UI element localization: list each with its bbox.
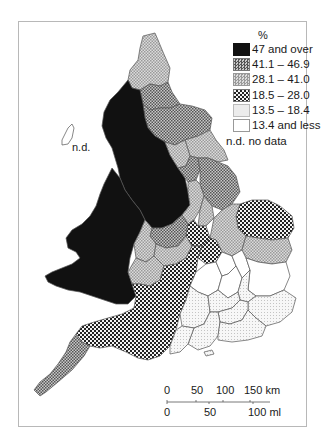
region-northumberland (128, 33, 170, 90)
legend-item: 13.4 and less (233, 118, 320, 133)
legend-item: 41.1 – 46.9 (233, 57, 320, 72)
legend-item: 18.5 – 28.0 (233, 88, 320, 103)
legend-label: 47 and over (252, 42, 313, 57)
region-cornwall (34, 334, 90, 396)
legend-label: 18.5 – 28.0 (252, 88, 310, 103)
legend-label: 41.1 – 46.9 (252, 57, 310, 72)
legend: % 47 and over 41.1 – 46.9 28.1 – 41.0 18… (233, 28, 320, 149)
legend-swatch-black (233, 43, 250, 56)
legend-swatch-white (233, 119, 250, 132)
legend-unit: % (233, 28, 320, 42)
scale-km-tick: 150 km (244, 384, 280, 396)
scale-km-tick: 100 (216, 384, 234, 396)
legend-label: 13.4 and less (252, 118, 320, 133)
legend-item: 47 and over (233, 42, 320, 57)
scale-ml-tick: 0 (164, 406, 170, 418)
legend-item: 13.5 – 18.4 (233, 103, 320, 118)
isle-of-wight (204, 350, 214, 356)
region-durham (140, 82, 180, 110)
legend-label: 28.1 – 41.0 (252, 72, 310, 87)
legend-swatch-light-crosshatch (233, 73, 250, 86)
legend-no-data: n.d. no data (226, 134, 320, 149)
scale-bar: 0 50 100 150 km 0 50 100 ml (164, 382, 294, 422)
scale-km-tick: 0 (164, 384, 170, 396)
scale-ml-tick: 100 ml (248, 406, 281, 418)
isle-of-man-label: n.d. (72, 141, 90, 153)
legend-swatch-large-dots (233, 89, 250, 102)
legend-label: 13.5 – 18.4 (252, 103, 310, 118)
scale-ml-tick: 50 (204, 406, 216, 418)
region-norfolk (236, 200, 294, 240)
legend-swatch-dense-crosshatch (233, 58, 250, 71)
legend-swatch-fine-dots (233, 104, 250, 117)
scale-km-tick: 50 (191, 384, 203, 396)
legend-item: 28.1 – 41.0 (233, 72, 320, 87)
